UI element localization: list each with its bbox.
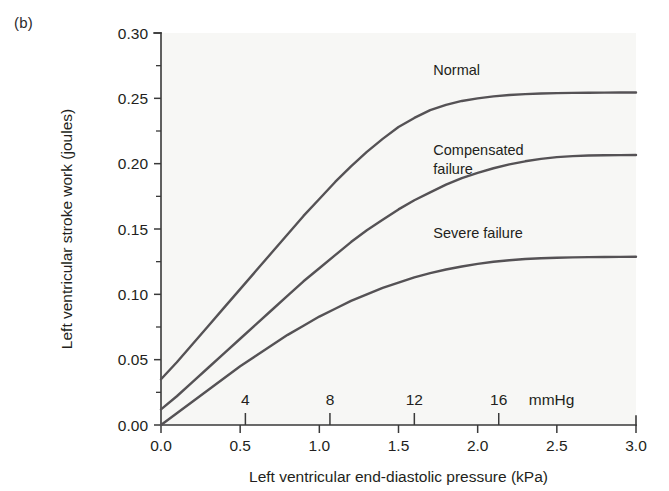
y-tick-label: 0.30 xyxy=(118,25,149,42)
mmhg-tick-label: 8 xyxy=(326,391,335,408)
chart-canvas: 0.000.050.100.150.200.250.300.00.51.01.5… xyxy=(0,0,669,491)
y-axis-title: Left ventricular stroke work (joules) xyxy=(58,109,75,349)
x-axis-title: Left ventricular end-diastolic pressure … xyxy=(249,468,548,485)
mmhg-unit-label: mmHg xyxy=(529,391,575,408)
y-tick-label: 0.15 xyxy=(118,221,148,238)
mmhg-tick-label: 16 xyxy=(490,391,507,408)
x-tick-label: 0.0 xyxy=(150,437,172,454)
x-tick-label: 0.5 xyxy=(229,437,251,454)
x-tick-label: 1.5 xyxy=(388,437,410,454)
mmhg-tick-label: 4 xyxy=(241,391,250,408)
panel-label: (b) xyxy=(14,14,33,31)
series-label-severe-failure: Severe failure xyxy=(433,225,522,241)
series-label-compensated-failure-line2: failure xyxy=(433,161,473,177)
x-tick-label: 3.0 xyxy=(625,437,647,454)
y-tick-label: 0.20 xyxy=(118,155,149,172)
mmhg-tick-label: 12 xyxy=(406,391,423,408)
x-tick-label: 2.0 xyxy=(467,437,489,454)
x-tick-label: 1.0 xyxy=(309,437,331,454)
series-label-compensated-failure-line1: Compensated xyxy=(433,142,523,158)
y-tick-label: 0.25 xyxy=(118,90,148,107)
x-tick-label: 2.5 xyxy=(546,437,568,454)
y-tick-label: 0.05 xyxy=(118,351,148,368)
y-tick-label: 0.00 xyxy=(118,417,149,434)
y-tick-label: 0.10 xyxy=(118,286,149,303)
series-label-normal: Normal xyxy=(433,62,480,78)
